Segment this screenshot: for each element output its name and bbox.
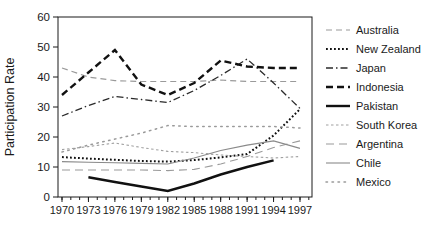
x-axis-tick-label: 1991: [235, 204, 259, 216]
y-axis-tick-label: 40: [37, 71, 50, 83]
legend-item-indonesia: Indonesia: [326, 81, 405, 93]
x-axis-tick-label: 1970: [50, 204, 74, 216]
series-line-indonesia: [62, 50, 300, 95]
y-axis-tick-label: 30: [37, 101, 50, 113]
legend-label: Argentina: [356, 138, 404, 150]
participation-rate-line-chart: 0102030405060197019731976197919821985198…: [0, 0, 434, 247]
legend-item-australia: Australia: [326, 24, 400, 36]
legend-label: Indonesia: [356, 81, 405, 93]
legend-item-mexico: Mexico: [326, 176, 391, 188]
y-axis-tick-label: 50: [37, 41, 50, 53]
y-axis-title: Participation Rate: [3, 58, 17, 157]
x-axis-tick-label: 1997: [288, 204, 312, 216]
series-line-south-korea: [62, 143, 300, 158]
series-line-new-zealand: [62, 109, 300, 162]
legend-label: New Zealand: [356, 43, 421, 55]
x-axis-tick-label: 1994: [261, 204, 285, 216]
x-axis-tick-label: 1976: [103, 204, 127, 216]
legend-item-chile: Chile: [326, 157, 381, 169]
legend-label: South Korea: [356, 119, 418, 131]
legend-label: Australia: [356, 24, 400, 36]
legend-item-argentina: Argentina: [326, 138, 404, 150]
legend-label: Pakistan: [356, 100, 398, 112]
y-axis-tick-label: 10: [37, 161, 50, 173]
y-axis-tick-label: 60: [37, 11, 50, 23]
y-axis-tick-label: 0: [44, 191, 50, 203]
legend-label: Japan: [356, 62, 386, 74]
y-axis-tick-label: 20: [37, 131, 50, 143]
legend-item-pakistan: Pakistan: [326, 100, 398, 112]
legend-label: Mexico: [356, 176, 391, 188]
x-axis-tick-label: 1982: [156, 204, 180, 216]
legend-item-new-zealand: New Zealand: [326, 43, 421, 55]
participation-rate-figure: 0102030405060197019731976197919821985198…: [0, 0, 434, 247]
x-axis-tick-label: 1988: [208, 204, 232, 216]
x-axis-tick-label: 1985: [182, 204, 206, 216]
x-axis-tick-label: 1973: [76, 204, 100, 216]
legend: AustraliaNew ZealandJapanIndonesiaPakist…: [326, 24, 421, 188]
legend-label: Chile: [356, 157, 381, 169]
legend-item-japan: Japan: [326, 62, 386, 74]
series-line-japan: [62, 59, 300, 116]
legend-item-south-korea: South Korea: [326, 119, 418, 131]
series-line-pakistan: [88, 160, 273, 191]
x-axis-tick-label: 1979: [129, 204, 153, 216]
series-line-mexico: [62, 126, 300, 152]
